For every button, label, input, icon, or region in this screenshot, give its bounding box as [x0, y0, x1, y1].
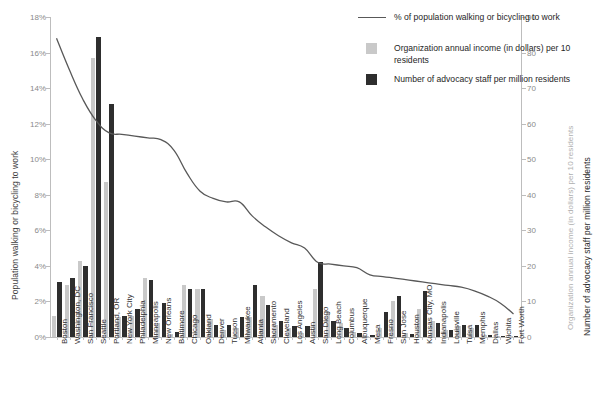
x-tick-mark — [487, 337, 488, 340]
x-label-philadelphia: Philadelphia — [138, 300, 147, 344]
right-tick-30: 30 — [527, 226, 536, 235]
right-tick-20: 20 — [527, 261, 536, 270]
x-label-albuquerque: Albuquerque — [360, 299, 369, 344]
left-tick-16: 16% — [22, 48, 46, 57]
x-tick-mark — [161, 337, 162, 340]
x-tick-mark — [239, 337, 240, 340]
x-tick-mark — [513, 337, 514, 340]
x-tick-mark — [252, 337, 253, 340]
x-tick-mark — [357, 337, 358, 340]
gray-square-icon — [366, 43, 377, 54]
left-tick-10: 10% — [22, 155, 46, 164]
right-tick-0: 0 — [527, 333, 531, 342]
left-tick-0: 0% — [22, 333, 46, 342]
x-label-mesa: Mesa — [373, 324, 382, 344]
x-label-tulsa: Tulsa — [465, 325, 474, 344]
x-tick-mark — [96, 337, 97, 340]
x-label-fort-worth: Fort Worth — [517, 306, 526, 344]
right-tick-mark — [522, 230, 526, 231]
x-tick-mark — [83, 337, 84, 340]
x-tick-mark — [213, 337, 214, 340]
x-tick-mark — [461, 337, 462, 340]
x-tick-mark — [109, 337, 110, 340]
right-tick-mark — [522, 301, 526, 302]
x-label-washington-dc: Washington, DC — [73, 286, 82, 344]
x-label-cleveland: Cleveland — [282, 308, 291, 344]
left-tick-18: 18% — [22, 13, 46, 22]
x-label-sacramento: Sacramento — [269, 301, 278, 344]
line-swatch-icon — [358, 17, 386, 18]
left-axis-title: Population walking or bicycling to work — [10, 151, 20, 300]
x-label-indianapolis: Indianapolis — [439, 301, 448, 344]
right-tick-60: 60 — [527, 119, 536, 128]
left-tick-6: 6% — [22, 226, 46, 235]
right-tick-40: 40 — [527, 190, 536, 199]
x-tick-mark — [148, 337, 149, 340]
x-label-louisville: Louisville — [452, 311, 461, 344]
x-tick-mark — [292, 337, 293, 340]
x-label-dallas: Dallas — [491, 322, 500, 344]
x-label-baltimore: Baltimore — [177, 310, 186, 344]
x-tick-mark — [409, 337, 410, 340]
x-tick-mark — [70, 337, 71, 340]
right-tick-mark — [522, 124, 526, 125]
x-tick-mark — [435, 337, 436, 340]
legend-label-line: % of population walking or bicycling to … — [394, 12, 572, 24]
x-tick-mark — [318, 337, 319, 340]
x-label-san-diego: San Diego — [321, 307, 330, 344]
x-tick-mark — [278, 337, 279, 340]
x-tick-mark — [174, 337, 175, 340]
x-tick-mark — [200, 337, 201, 340]
x-label-new-orleans: New Orleans — [164, 298, 173, 344]
x-tick-mark — [370, 337, 371, 340]
right-tick-mark — [522, 266, 526, 267]
x-label-san-francisco: San Francisco — [86, 293, 95, 344]
x-label-wichita: Wichita — [504, 318, 513, 344]
legend-item-income: Organization annual income (in dollars) … — [358, 43, 573, 65]
x-label-san-jose: San Jose — [399, 311, 408, 344]
x-label-tucson: Tucson — [230, 318, 239, 344]
left-tick-14: 14% — [22, 84, 46, 93]
x-tick-mark — [383, 337, 384, 340]
chart-legend: % of population walking or bicycling to … — [358, 12, 573, 105]
x-label-milwaukee: Milwaukee — [243, 306, 252, 344]
right-tick-mark — [522, 159, 526, 160]
black-square-icon — [366, 74, 377, 85]
x-label-fresno: Fresno — [386, 319, 395, 344]
x-label-austin: Austin — [308, 322, 317, 344]
x-label-minneapolis: Minneapolis — [151, 301, 160, 344]
x-label-new-york-city: New York City — [125, 294, 134, 344]
x-tick-mark — [344, 337, 345, 340]
x-tick-mark — [57, 337, 58, 340]
x-label-seattle: Seattle — [99, 319, 108, 344]
x-label-memphis: Memphis — [478, 312, 487, 344]
legend-label-income: Organization annual income (in dollars) … — [394, 43, 572, 66]
x-label-los-angeles: Los Angeles — [295, 300, 304, 344]
x-label-denver: Denver — [217, 318, 226, 344]
x-tick-mark — [226, 337, 227, 340]
left-tick-2: 2% — [22, 297, 46, 306]
x-tick-mark — [265, 337, 266, 340]
chart-root: Population walking or bicycling to work … — [0, 0, 602, 418]
legend-item-staff: Number of advocacy staff per million res… — [358, 74, 573, 96]
x-label-columbus: Columbus — [347, 308, 356, 344]
x-label-atlanta: Atlanta — [256, 319, 265, 344]
x-tick-mark — [448, 337, 449, 340]
x-tick-mark — [474, 337, 475, 340]
left-tick-8: 8% — [22, 190, 46, 199]
right-axis-title-staff: Number of advocacy staff per million res… — [582, 157, 592, 336]
legend-label-staff: Number of advocacy staff per million res… — [394, 74, 572, 86]
left-tick-mark — [46, 337, 50, 338]
x-tick-mark — [122, 337, 123, 340]
x-label-houston: Houston — [412, 314, 421, 344]
right-axis-title-income: Organization annual income (in dollars) … — [566, 126, 575, 330]
x-label-oakland: Oakland — [204, 314, 213, 344]
x-tick-mark — [135, 337, 136, 340]
x-tick-mark — [187, 337, 188, 340]
bar-staff — [96, 37, 100, 337]
x-label-kansas-city-mo: Kansas City, MO — [425, 285, 434, 344]
bar-income — [52, 316, 56, 337]
left-tick-12: 12% — [22, 119, 46, 128]
x-label-long-beach: Long Beach — [334, 301, 343, 344]
x-tick-mark — [500, 337, 501, 340]
